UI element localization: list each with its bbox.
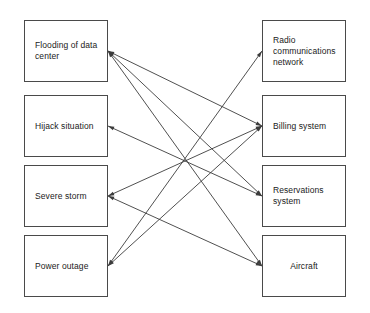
node-aircraft[interactable]: Aircraft [262, 235, 346, 297]
node-label: Reservations system [263, 185, 345, 207]
edge-storm-to-aircraft [108, 196, 262, 266]
node-reservations-system[interactable]: Reservations system [262, 165, 346, 227]
node-flooding-of-data-center[interactable]: Flooding of data center [24, 20, 108, 82]
edge-outage-to-billing [108, 126, 262, 266]
arrowhead-hijack [108, 126, 114, 130]
node-label: Severe storm [25, 191, 107, 202]
arrowhead-outage [108, 260, 113, 266]
arrowhead-outage [108, 260, 114, 266]
node-label: Hijack situation [25, 121, 107, 132]
node-severe-storm[interactable]: Severe storm [24, 165, 108, 227]
bipartite-diagram: Flooding of data center Hijack situation… [0, 0, 370, 313]
edge-storm-to-billing [108, 126, 262, 196]
edge-flooding-to-reservations [108, 51, 262, 196]
edge-flooding-to-billing [108, 51, 262, 126]
arrowhead-flooding [108, 51, 113, 57]
edge-hijack-to-reservations [108, 126, 262, 196]
edge-flooding-to-aircraft [108, 51, 262, 266]
arrowhead-flooding [108, 51, 114, 57]
node-power-outage[interactable]: Power outage [24, 235, 108, 297]
node-label: Power outage [25, 261, 107, 272]
arrowhead-storm [108, 196, 114, 200]
arrowhead-flooding [108, 51, 114, 55]
node-radio-communications-network[interactable]: Radio communications network [262, 20, 346, 82]
node-billing-system[interactable]: Billing system [262, 95, 346, 157]
node-hijack-situation[interactable]: Hijack situation [24, 95, 108, 157]
node-label: Radio communications network [263, 35, 345, 68]
edge-outage-to-radio [108, 51, 262, 266]
node-label: Aircraft [263, 261, 345, 272]
arrowhead-storm [108, 192, 114, 196]
node-label: Flooding of data center [25, 40, 107, 62]
node-label: Billing system [263, 121, 345, 132]
